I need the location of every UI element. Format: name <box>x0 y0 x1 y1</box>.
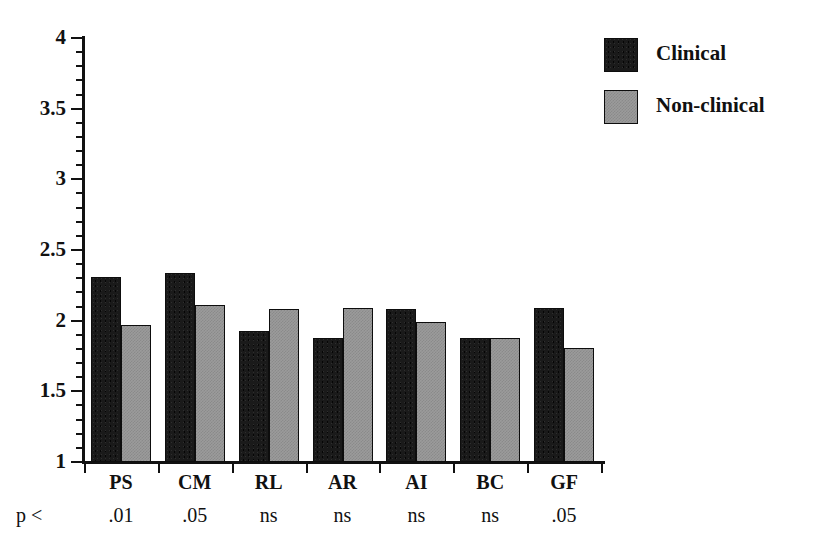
legend-item-clinical: Clinical <box>604 36 809 88</box>
plot-area <box>84 38 601 462</box>
category-label-ar: AR <box>306 472 380 492</box>
p-value-gf: .05 <box>527 505 601 525</box>
y-tick-label: 4 <box>56 27 67 48</box>
bar-rl-non-clinical <box>269 309 299 462</box>
bar-chart-figure: 11.522.533.54 PSCMRLARAIBCGF p < .01.05n… <box>0 0 813 556</box>
y-tick-minor <box>76 277 84 279</box>
bar-ps-non-clinical <box>121 325 151 462</box>
category-label-ai: AI <box>379 472 453 492</box>
legend-item-nonclinical: Non-clinical <box>604 88 809 140</box>
y-tick-minor <box>76 192 84 194</box>
y-tick-major <box>71 37 84 39</box>
y-tick-label: 1.5 <box>40 380 66 401</box>
bar-ai-non-clinical <box>416 322 446 462</box>
y-tick-minor <box>76 122 84 124</box>
category-label-rl: RL <box>232 472 306 492</box>
y-tick-major <box>71 249 84 251</box>
clinical-swatch-icon <box>604 38 638 72</box>
y-tick-minor <box>76 79 84 81</box>
p-value-prefix-label: p < <box>16 505 42 525</box>
y-tick-minor <box>76 447 84 449</box>
legend-label-nonclinical: Non-clinical <box>656 92 765 119</box>
category-label-cm: CM <box>158 472 232 492</box>
y-tick-major <box>71 390 84 392</box>
y-tick-label: 2.5 <box>40 239 66 260</box>
y-tick-major <box>71 108 84 110</box>
y-tick-minor <box>76 376 84 378</box>
category-label-bc: BC <box>453 472 527 492</box>
y-tick-minor <box>76 334 84 336</box>
y-tick-minor <box>76 207 84 209</box>
y-tick-label: 3 <box>56 168 67 189</box>
y-tick-minor <box>76 306 84 308</box>
bar-gf-non-clinical <box>564 348 594 462</box>
nonclinical-swatch-icon <box>604 90 638 124</box>
y-tick-minor <box>76 94 84 96</box>
y-tick-major <box>71 320 84 322</box>
y-tick-minor <box>76 65 84 67</box>
category-label-gf: GF <box>527 472 601 492</box>
y-tick-minor <box>76 362 84 364</box>
y-tick-minor <box>76 291 84 293</box>
y-tick-minor <box>76 221 84 223</box>
p-value-bc: ns <box>453 505 527 525</box>
y-tick-major <box>71 178 84 180</box>
bar-ai-clinical <box>386 309 416 462</box>
y-tick-minor <box>76 51 84 53</box>
y-tick-label: 1 <box>56 451 67 472</box>
p-value-ar: ns <box>306 505 380 525</box>
bar-ar-clinical <box>313 338 343 462</box>
y-tick-minor <box>76 164 84 166</box>
bar-ps-clinical <box>91 277 121 462</box>
legend-label-clinical: Clinical <box>656 40 726 67</box>
p-value-ps: .01 <box>84 505 158 525</box>
bar-cm-clinical <box>165 273 195 462</box>
p-value-ai: ns <box>379 505 453 525</box>
p-value-row: p < .01.05nsnsnsns.05 <box>0 505 813 535</box>
category-label-ps: PS <box>84 472 158 492</box>
y-tick-minor <box>76 263 84 265</box>
y-tick-minor <box>76 136 84 138</box>
bar-rl-clinical <box>239 331 269 462</box>
chart-legend: Clinical Non-clinical <box>604 36 809 140</box>
y-tick-minor <box>76 348 84 350</box>
y-tick-minor <box>76 150 84 152</box>
y-tick-label: 2 <box>56 310 67 331</box>
p-value-rl: ns <box>232 505 306 525</box>
y-tick-minor <box>76 404 84 406</box>
p-value-cm: .05 <box>158 505 232 525</box>
bar-gf-clinical <box>534 308 564 462</box>
bar-ar-non-clinical <box>343 308 373 462</box>
bar-bc-clinical <box>460 338 490 462</box>
y-tick-minor <box>76 419 84 421</box>
bar-bc-non-clinical <box>490 338 520 462</box>
y-tick-label: 3.5 <box>40 98 66 119</box>
x-axis-category-labels: PSCMRLARAIBCGF <box>0 472 813 502</box>
y-tick-minor <box>76 235 84 237</box>
y-tick-major <box>71 461 84 463</box>
y-tick-minor <box>76 433 84 435</box>
bar-cm-non-clinical <box>195 305 225 462</box>
